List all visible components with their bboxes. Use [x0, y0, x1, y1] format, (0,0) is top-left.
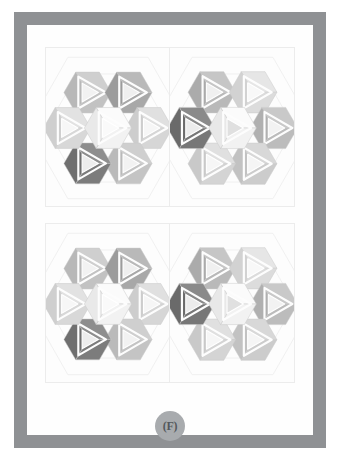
hexagon-tile [188, 143, 236, 184]
cluster-top-left [46, 48, 169, 206]
hexagon-tile [64, 72, 111, 113]
hexagon-tile [84, 284, 131, 325]
figure-sheet [27, 25, 313, 435]
hexagon-tile [188, 72, 236, 113]
hexagon-tile [229, 248, 277, 289]
hexagon-tile [105, 143, 152, 184]
hexagon-tile [64, 248, 111, 289]
hexagon-tile [46, 284, 91, 325]
hexagon-tile [229, 319, 277, 360]
hexagon-tile [229, 72, 277, 113]
hexagon-tile [170, 283, 215, 324]
panel-half-top-right [170, 48, 294, 206]
hexagon-tile [105, 248, 152, 289]
figure-label-badge: (F) [155, 411, 185, 441]
hexagon-tile [188, 319, 236, 360]
cluster-bottom-right [170, 224, 294, 382]
hexagon-tile [105, 72, 152, 113]
hexagon-tile [46, 108, 91, 149]
panel-bottom [45, 223, 295, 383]
panel-half-bottom-left [46, 224, 170, 382]
figure-canvas: (F) [0, 0, 340, 462]
panel-half-bottom-right [170, 224, 294, 382]
panel-half-top-left [46, 48, 170, 206]
hexagon-tile [64, 319, 111, 360]
hexagon-tile [105, 319, 152, 360]
hexagon-tile [229, 143, 277, 184]
hexagon-tile [209, 107, 257, 148]
cluster-bottom-left [46, 224, 169, 382]
hexagon-tile [64, 143, 111, 184]
hexagon-tile [170, 107, 215, 148]
figure-page [27, 25, 313, 435]
hexagon-tile [209, 283, 257, 324]
panel-top [45, 47, 295, 207]
figure-frame [14, 12, 326, 448]
hexagon-tile [188, 248, 236, 289]
cluster-top-right [170, 48, 294, 206]
hexagon-tile [84, 108, 131, 149]
